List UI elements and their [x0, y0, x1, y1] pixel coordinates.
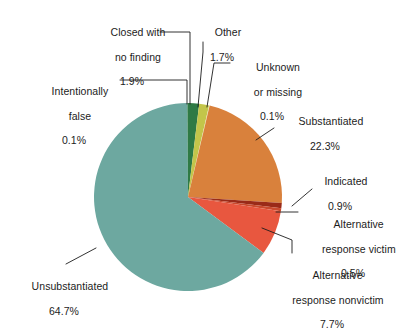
slice-label-line1: Intentionally — [52, 85, 109, 97]
slice-label-unsubstantiated: Unsubstantiated 64.7% — [6, 268, 122, 332]
slice-label-percent: 0.1% — [26, 134, 122, 146]
slice-label-alternative-response-nonvictim: Alternative response nonvictim 7.7% — [256, 257, 408, 332]
slice-label-line1: Closed with — [111, 26, 166, 38]
slice-label-line1: Alternative — [334, 218, 384, 230]
slice-label-line1: Unknown — [256, 61, 300, 73]
slice-label-line2: or missing — [254, 86, 302, 98]
slice-label-line1: Other — [215, 26, 242, 38]
slice-label-percent: 64.7% — [6, 305, 122, 317]
slice-label-line1: Substantiated — [299, 115, 364, 127]
slice-label-line1: Alternative — [313, 269, 363, 281]
slice-label-intentionally-false: Intentionally false 0.1% — [26, 73, 122, 171]
slice-label-line2: response nonvictim — [292, 294, 383, 306]
slice-label-percent: 22.3% — [276, 140, 374, 152]
slice-label-line2: response victim — [322, 243, 396, 255]
slice-label-line1: Indicated — [324, 175, 367, 187]
slice-label-line2: no finding — [115, 51, 161, 63]
leader-line-unsubstantiated — [66, 248, 96, 264]
slice-label-line2: false — [69, 110, 91, 122]
slice-label-line1: Unsubstantiated — [32, 280, 109, 292]
slice-label-percent: 7.7% — [256, 318, 408, 330]
